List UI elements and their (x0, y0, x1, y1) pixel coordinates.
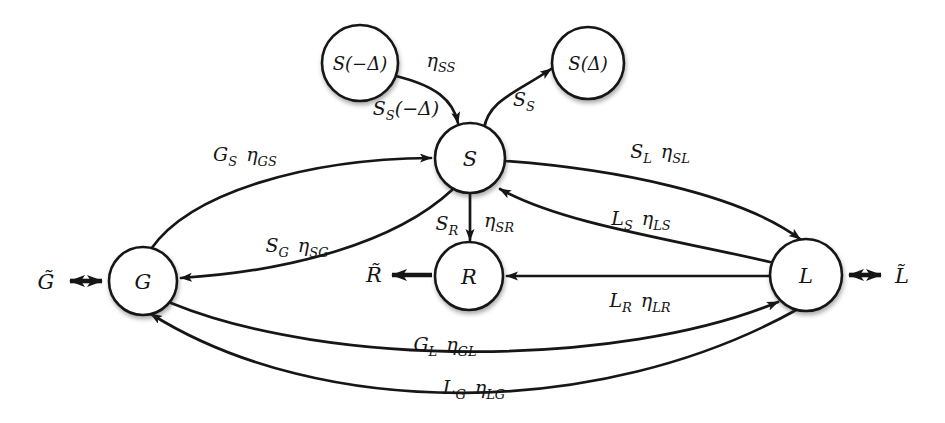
background (0, 0, 945, 423)
flux-diagram: S(−Δ) S(Δ) S G R L G̃ R̃ L̃ ηSS SS(−Δ) S… (0, 0, 945, 423)
node-r-label: R (460, 265, 477, 289)
node-s-label: S (463, 147, 477, 171)
external-g-label: G̃ (38, 270, 55, 294)
flux-diagram-stage: S(−Δ) S(Δ) S G R L G̃ R̃ L̃ ηSS SS(−Δ) S… (0, 0, 945, 423)
external-r-label: R̃ (365, 263, 382, 287)
node-g-label: G (135, 270, 152, 294)
node-l-label: L (798, 264, 813, 288)
node-s-delta-label: S(Δ) (568, 53, 607, 74)
external-l-label: L̃ (894, 264, 909, 288)
node-s-minus-delta-label: S(−Δ) (333, 53, 387, 74)
